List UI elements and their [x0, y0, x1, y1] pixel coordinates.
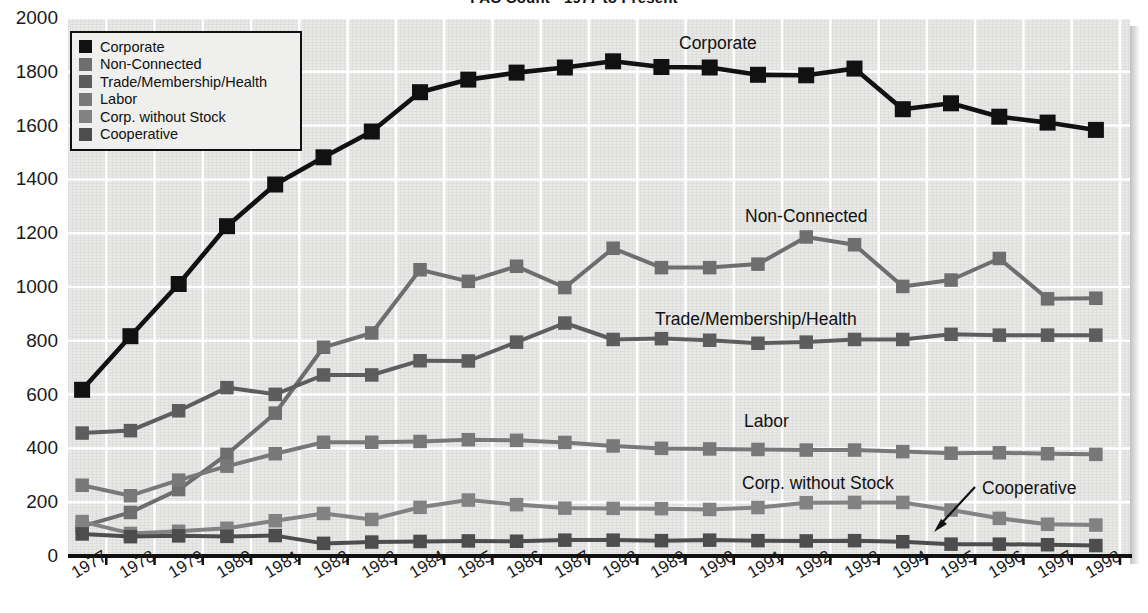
data-point-marker	[606, 439, 620, 453]
data-point-marker	[365, 535, 379, 549]
data-point-marker	[848, 534, 862, 548]
data-point-marker	[702, 60, 718, 76]
data-point-marker	[220, 381, 234, 395]
data-point-marker	[317, 507, 331, 521]
data-point-marker	[606, 242, 620, 256]
data-point-marker	[462, 275, 476, 289]
data-point-marker	[75, 426, 89, 440]
data-point-marker	[848, 496, 862, 510]
data-point-marker	[993, 328, 1007, 342]
series-cooperative	[75, 527, 1102, 552]
data-point-marker	[75, 515, 89, 529]
data-point-marker	[74, 382, 90, 398]
legend-item-label: Corp. without Stock	[100, 110, 226, 125]
data-point-marker	[944, 328, 958, 342]
data-point-marker	[1089, 539, 1103, 553]
series-labor	[75, 433, 1102, 503]
data-point-marker	[365, 326, 379, 340]
data-point-marker	[655, 502, 669, 516]
y-axis-tick-label: 1000	[0, 276, 58, 298]
legend-item: Corp. without Stock	[79, 108, 293, 126]
legend-swatch-icon	[79, 75, 92, 88]
data-point-marker	[1088, 122, 1104, 138]
chart-legend: CorporateNon-ConnectedTrade/Membership/H…	[70, 31, 302, 151]
data-point-marker	[365, 368, 379, 382]
legend-item-label: Non-Connected	[100, 57, 202, 72]
data-point-marker	[317, 436, 331, 450]
data-point-marker	[895, 101, 911, 117]
annotation-cooperative: Cooperative	[982, 478, 1076, 499]
data-point-marker	[1041, 447, 1055, 461]
data-point-marker	[655, 534, 669, 548]
data-point-marker	[269, 514, 283, 528]
data-point-marker	[751, 257, 765, 271]
data-point-marker	[896, 496, 910, 510]
data-point-marker	[606, 333, 620, 347]
data-point-marker	[751, 534, 765, 548]
data-point-marker	[558, 501, 572, 515]
data-point-marker	[655, 442, 669, 456]
data-point-marker	[269, 529, 283, 543]
data-point-marker	[896, 535, 910, 549]
plot-drop-shadow	[1130, 26, 1140, 564]
data-point-marker	[365, 436, 379, 450]
data-point-marker	[509, 65, 525, 81]
data-point-marker	[316, 149, 332, 165]
data-point-marker	[558, 281, 572, 295]
data-point-marker	[413, 535, 427, 549]
data-point-marker	[364, 124, 380, 140]
data-point-marker	[460, 72, 476, 88]
data-point-marker	[462, 433, 476, 447]
data-point-marker	[993, 537, 1007, 551]
data-point-marker	[655, 332, 669, 346]
data-point-marker	[1040, 115, 1056, 131]
data-point-marker	[124, 424, 138, 438]
data-point-marker	[943, 95, 959, 111]
data-point-marker	[124, 506, 138, 520]
data-point-marker	[944, 273, 958, 287]
data-point-marker	[510, 535, 524, 549]
data-point-marker	[510, 498, 524, 512]
data-point-marker	[944, 447, 958, 461]
data-point-marker	[751, 443, 765, 457]
y-axis-tick-label: 1400	[0, 168, 58, 190]
data-point-marker	[1041, 328, 1055, 342]
data-point-marker	[896, 280, 910, 294]
data-point-marker	[462, 534, 476, 548]
data-point-marker	[848, 238, 862, 252]
data-point-marker	[606, 502, 620, 515]
data-point-marker	[462, 493, 476, 507]
y-axis-tick-label: 1600	[0, 115, 58, 137]
annotation-non-connected: Non-Connected	[745, 206, 868, 227]
annotation-corp-without-stock: Corp. without Stock	[742, 473, 894, 494]
legend-item-label: Cooperative	[100, 127, 178, 142]
data-point-marker	[847, 61, 863, 77]
annotation-corporate: Corporate	[679, 33, 757, 54]
data-point-marker	[558, 436, 572, 450]
data-point-marker	[848, 333, 862, 347]
data-point-marker	[365, 513, 379, 527]
data-point-marker	[1041, 292, 1055, 306]
data-point-marker	[848, 443, 862, 457]
chart-page: PAC Count - 1977 to Present 200018001600…	[0, 0, 1148, 613]
data-point-marker	[606, 533, 620, 547]
data-point-marker	[219, 218, 235, 234]
data-point-marker	[510, 434, 524, 448]
data-point-marker	[172, 404, 186, 418]
data-point-marker	[172, 529, 186, 543]
x-axis-ticks	[68, 556, 1130, 570]
data-point-marker	[655, 261, 669, 275]
data-point-marker	[75, 527, 89, 541]
data-point-marker	[220, 448, 234, 462]
data-point-marker	[800, 230, 814, 244]
series-trade-membership-health	[75, 316, 1102, 440]
data-point-marker	[317, 368, 331, 382]
data-point-marker	[800, 443, 814, 457]
data-point-marker	[800, 496, 814, 510]
data-point-marker	[557, 60, 573, 76]
data-point-marker	[510, 260, 524, 274]
data-point-marker	[1089, 518, 1103, 532]
legend-swatch-icon	[79, 58, 92, 71]
data-point-marker	[558, 533, 572, 547]
legend-item: Non-Connected	[79, 56, 293, 74]
